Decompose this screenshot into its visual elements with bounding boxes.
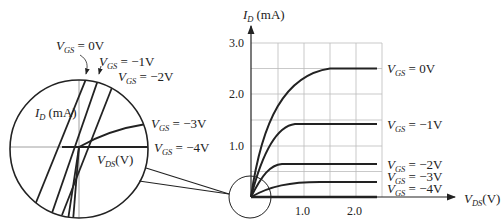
y-tick-1: 1.0 xyxy=(229,139,244,153)
y-tick-2: 2.0 xyxy=(229,87,244,101)
inset-label-vgs-minus4: VGS = −4V xyxy=(154,140,210,157)
y-tick-3: 3.0 xyxy=(229,36,244,50)
curve-vgs-minus1 xyxy=(251,124,377,197)
curve-label-vgs-0: VGS = 0V xyxy=(387,61,436,78)
inset-label-vgs-minus2: VGS = −2V xyxy=(118,69,174,86)
inset-x-axis-label: VDS(V) xyxy=(97,152,133,169)
inset-y-axis-label: ID(mA) xyxy=(34,105,77,122)
x-tick-2: 2.0 xyxy=(347,204,362,218)
y-axis-label: ID(mA) xyxy=(242,7,285,24)
inset-label-vgs-0: VGS = 0V xyxy=(56,38,105,55)
inset-leader-vgs-0 xyxy=(80,55,87,74)
curve-label-vgs-minus1: VGS = −1V xyxy=(387,117,443,134)
magnified-inset: ID(mA) VDS(V) VGS = 0V VGS = −1V VGS = −… xyxy=(10,38,210,221)
callout-lines xyxy=(139,168,229,194)
figure-canvas: 3.0 2.0 1.0 1.0 2.0 ID(mA) VDS(V) VGS = … xyxy=(0,0,502,223)
x-axis-label: VDS(V) xyxy=(464,191,500,208)
jfet-characteristics-figure: 3.0 2.0 1.0 1.0 2.0 ID(mA) VDS(V) VGS = … xyxy=(0,0,502,223)
inset-label-vgs-minus3: VGS = −3V xyxy=(151,116,207,133)
curve-vgs-0 xyxy=(251,69,377,198)
x-tick-1: 1.0 xyxy=(295,204,310,218)
characteristic-curves xyxy=(251,69,377,198)
main-plot: 3.0 2.0 1.0 1.0 2.0 ID(mA) VDS(V) VGS = … xyxy=(229,7,500,218)
